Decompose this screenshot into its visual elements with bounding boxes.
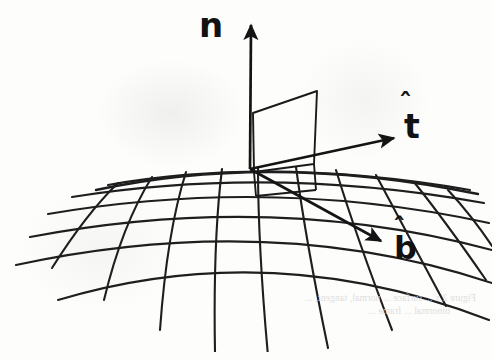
tangent-vector-label: ̂ t bbox=[404, 110, 420, 143]
normal-label-letter: n bbox=[199, 5, 223, 45]
binormal-vector-label: ̂ b bbox=[394, 232, 417, 264]
normal-vector-label: ̂ n bbox=[199, 8, 223, 42]
latitude-lines bbox=[16, 172, 492, 320]
surface-frame-diagram bbox=[0, 0, 492, 360]
frame-vectors bbox=[250, 25, 394, 241]
normal-plane-panel bbox=[253, 91, 317, 172]
normal-vector-arrow bbox=[250, 25, 251, 169]
tangent-vector-arrow bbox=[250, 138, 394, 169]
binormal-label-letter: b bbox=[394, 229, 417, 267]
surface-wireframe bbox=[16, 167, 492, 356]
tangent-label-letter: t bbox=[404, 107, 420, 146]
figure-container: ̂ n ̂ t ̂ b Figure 2.x ... surface ... n… bbox=[0, 0, 492, 360]
